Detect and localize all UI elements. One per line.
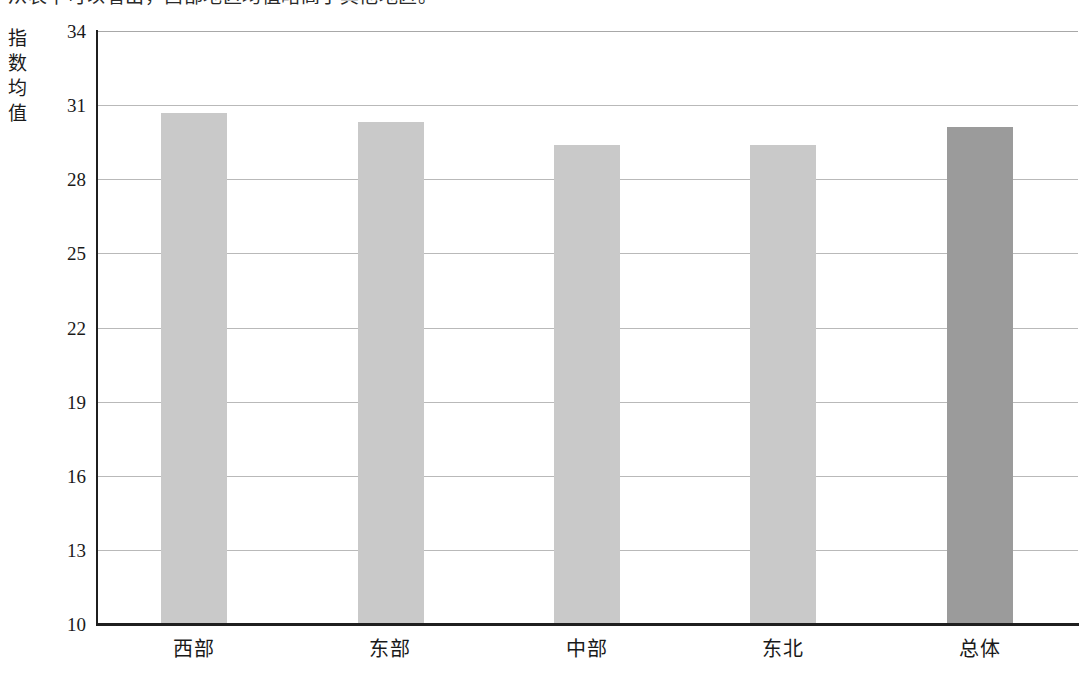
y-axis-title-char-2: 数: [4, 51, 30, 76]
x-tick-label-东部: 东部: [292, 636, 488, 662]
bar-西部: [161, 113, 227, 624]
y-axis-tick-labels: 343128252219161310: [34, 0, 86, 679]
y-axis-title-char-1: 指: [4, 26, 30, 51]
bar-东部: [358, 122, 424, 624]
y-tick-label-10: 10: [40, 615, 86, 634]
y-tick-label-16: 16: [40, 467, 86, 486]
y-tick-label-19: 19: [40, 393, 86, 412]
bar-东北: [750, 145, 816, 624]
x-tick-label-东北: 东北: [685, 636, 881, 662]
x-tick-label-总体: 总体: [882, 636, 1078, 662]
y-tick-label-22: 22: [40, 319, 86, 338]
y-tick-label-34: 34: [40, 22, 86, 41]
plot-area: [96, 31, 1078, 624]
x-axis-line: [96, 623, 1079, 626]
y-tick-label-31: 31: [40, 96, 86, 115]
bar-chart-figure: 指 数 均 值 343128252219161310 西部东部中部东北总体: [0, 0, 1089, 679]
x-tick-label-中部: 中部: [489, 636, 685, 662]
bar-总体: [947, 127, 1013, 624]
y-axis-title-char-3: 均: [4, 76, 30, 101]
gridline-31: [96, 105, 1078, 106]
y-tick-label-13: 13: [40, 541, 86, 560]
y-axis-line: [96, 30, 98, 625]
y-tick-label-28: 28: [40, 170, 86, 189]
gridline-34: [96, 31, 1078, 32]
bar-中部: [554, 145, 620, 624]
x-tick-label-西部: 西部: [96, 636, 292, 662]
y-axis-title-char-4: 值: [4, 101, 30, 126]
y-tick-label-25: 25: [40, 244, 86, 263]
y-axis-title: 指 数 均 值: [4, 26, 30, 126]
x-axis-tick-labels: 西部东部中部东北总体: [96, 636, 1078, 670]
